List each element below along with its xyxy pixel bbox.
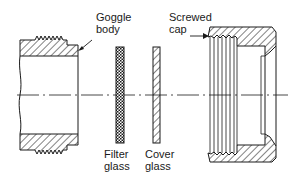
screwed-cap-label: Screwed cap	[169, 11, 212, 35]
cover-glass-part	[153, 47, 160, 143]
goggle-body-label: Goggle body	[96, 11, 131, 35]
goggle-body-label-line1: Goggle	[96, 11, 131, 23]
screwed-cap-part	[208, 27, 276, 162]
filter-glass-part	[116, 47, 124, 143]
filter-glass-label-line2: glass	[104, 160, 130, 172]
screwed-cap-label-line1: Screwed	[169, 11, 212, 23]
cover-glass-label-line2: glass	[145, 160, 174, 172]
goggle-body-label-line2: body	[96, 23, 131, 35]
goggle-body-leader	[78, 40, 92, 51]
cover-glass-label: Cover glass	[145, 148, 174, 172]
filter-glass-label: Filter glass	[104, 148, 130, 172]
filter-glass-label-line1: Filter	[104, 148, 130, 160]
screwed-cap-label-line2: cap	[169, 23, 212, 35]
cover-glass-label-line1: Cover	[145, 148, 174, 160]
